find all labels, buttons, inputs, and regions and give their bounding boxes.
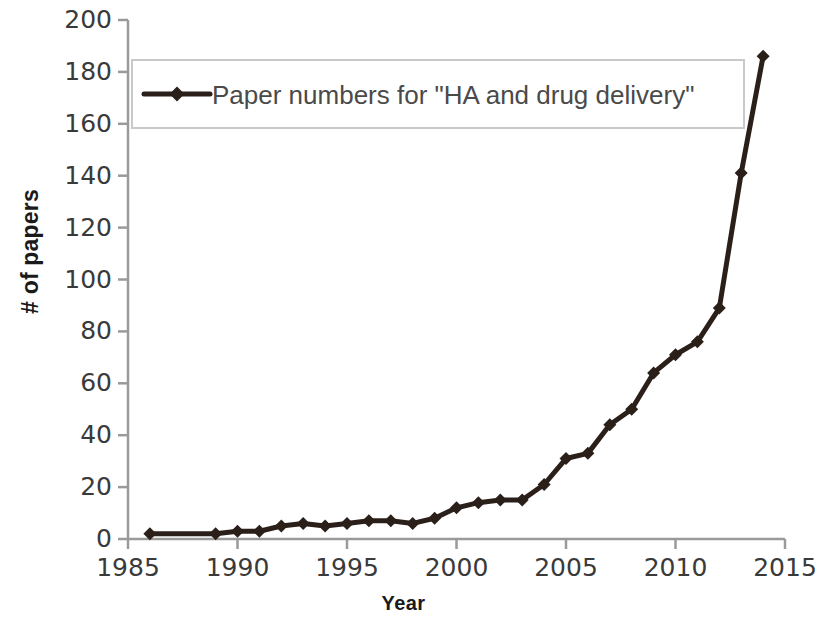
data-point-marker (319, 520, 332, 533)
data-point-marker (231, 525, 244, 538)
data-point-marker (297, 517, 310, 530)
data-point-marker (406, 517, 419, 530)
data-point-marker (253, 525, 266, 538)
data-point-marker (494, 494, 507, 507)
data-point-marker (757, 50, 770, 63)
data-point-marker (735, 167, 748, 180)
data-point-marker (341, 517, 354, 530)
data-point-marker (472, 496, 485, 509)
data-point-marker (362, 514, 375, 527)
data-point-marker (384, 514, 397, 527)
chart-legend: Paper numbers for "HA and drug delivery" (132, 60, 744, 128)
legend-label: Paper numbers for "HA and drug delivery" (212, 80, 694, 110)
data-point-marker (275, 520, 288, 533)
